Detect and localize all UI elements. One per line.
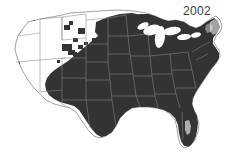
year-label: 2002: [183, 4, 211, 18]
us-distribution-map-figure: 2002: [0, 0, 241, 159]
us-map-graphic: [0, 0, 241, 159]
